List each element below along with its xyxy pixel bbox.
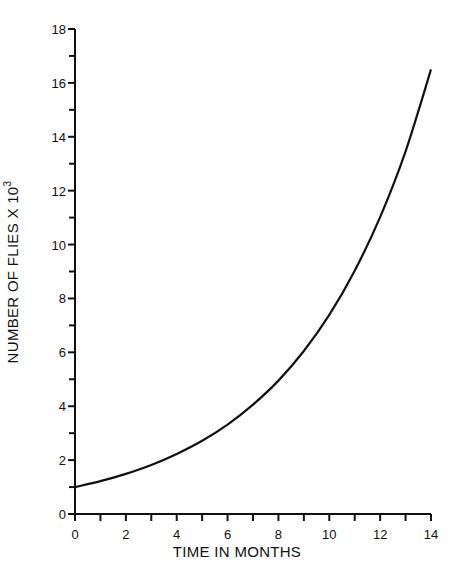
y-tick-label: 8 xyxy=(59,291,66,306)
growth-curve xyxy=(75,69,431,487)
y-tick-label: 6 xyxy=(59,345,66,360)
x-tick-label: 8 xyxy=(275,527,282,542)
x-tick-label: 12 xyxy=(373,527,387,542)
y-tick-label: 2 xyxy=(59,453,66,468)
x-tick-label: 4 xyxy=(173,527,180,542)
y-axis-title-superscript: 3 xyxy=(2,181,13,187)
y-tick-label: 16 xyxy=(52,76,66,91)
x-tick-label: 14 xyxy=(424,527,438,542)
y-tick-label: 10 xyxy=(52,238,66,253)
y-axis-title: NUMBER OF FLIES X 103 xyxy=(2,181,21,364)
line-chart: 024681012141618 02468101214 TIME IN MONT… xyxy=(0,0,455,575)
y-axis-title-text: NUMBER OF FLIES X 10 xyxy=(4,187,21,364)
y-tick-label: 12 xyxy=(52,184,66,199)
y-axis: 024681012141618 xyxy=(52,22,75,522)
y-tick-label: 14 xyxy=(52,130,66,145)
y-tick-label: 4 xyxy=(59,399,66,414)
y-tick-label: 18 xyxy=(52,22,66,37)
x-tick-label: 0 xyxy=(71,527,78,542)
x-axis: 02468101214 xyxy=(69,514,438,542)
x-tick-label: 2 xyxy=(122,527,129,542)
x-tick-label: 6 xyxy=(224,527,231,542)
x-tick-label: 10 xyxy=(322,527,336,542)
y-tick-label: 0 xyxy=(59,507,66,522)
x-axis-title: TIME IN MONTHS xyxy=(173,543,301,560)
